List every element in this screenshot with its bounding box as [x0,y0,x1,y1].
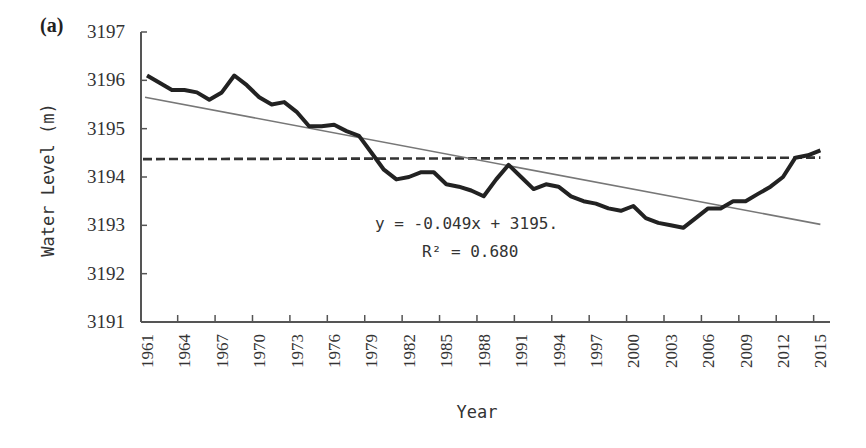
mean-dashed-line [143,158,820,160]
y-axis-ticks: 3191319231933194319531963197 [87,21,147,332]
trend-line [145,97,820,224]
x-tick-label: 1970 [250,334,269,368]
x-tick-label: 2009 [737,334,756,368]
x-tick-label: 1973 [288,334,307,368]
y-tick-label: 3191 [87,311,125,332]
x-tick-label: 2015 [811,334,830,368]
x-tick-label: 1985 [437,334,456,368]
x-tick-label: 1961 [138,334,157,368]
x-tick-label: 1997 [587,334,606,369]
y-tick-label: 3192 [87,263,125,284]
y-tick-label: 3194 [87,166,126,187]
x-tick-label: 1964 [175,334,194,369]
x-tick-label: 2006 [699,334,718,368]
y-tick-label: 3195 [87,118,125,139]
x-tick-label: 1988 [475,334,494,368]
x-tick-label: 2003 [662,334,681,368]
x-tick-label: 2012 [774,334,793,368]
y-tick-label: 3196 [87,69,125,90]
y-axis-title: Water Level (m) [38,103,58,257]
y-tick-label: 3197 [87,21,125,42]
x-axis-title: Year [457,402,498,422]
axes [141,32,830,322]
regression-equation: y = -0.049x + 3195. [375,214,558,233]
y-tick-label: 3193 [87,214,125,235]
x-tick-label: 2000 [624,334,643,368]
x-tick-label: 1967 [213,334,232,369]
x-tick-label: 1991 [512,334,531,368]
r-squared-label: R² = 0.680 [422,242,518,261]
x-tick-label: 1982 [400,334,419,368]
line-chart: 3191319231933194319531963197 19611964196… [0,0,866,448]
x-tick-label: 1976 [325,334,344,368]
x-tick-label: 1979 [362,334,381,368]
x-tick-label: 1994 [550,334,569,369]
